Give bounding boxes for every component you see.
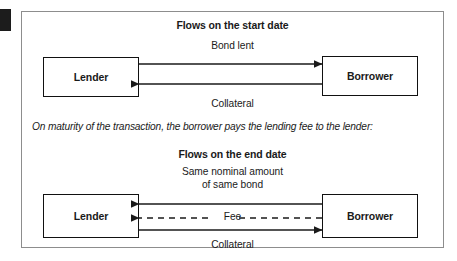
start-date-arrows: [22, 12, 445, 132]
start-collateral-label: Collateral: [22, 98, 443, 109]
fee-label: Fee: [22, 211, 443, 222]
diagram-frame: Flows on the start date Bond lent Lender…: [21, 11, 444, 248]
end-collateral-label: Collateral: [22, 239, 443, 250]
maturity-note: On maturity of the transaction, the borr…: [32, 121, 373, 132]
black-tab-marker: [0, 9, 11, 31]
